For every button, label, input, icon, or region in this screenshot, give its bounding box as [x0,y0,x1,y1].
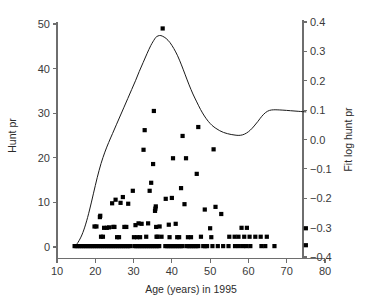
data-point-marker [98,214,102,218]
x-tick-label: 50 [204,265,216,277]
data-point-marker [210,244,214,248]
data-point-marker [233,244,237,248]
chart-figure: 01020304050−0.4−0.3−0.2−0.10.00.10.20.30… [0,0,367,306]
data-point-marker [245,226,249,230]
data-point-marker [203,207,207,211]
x-tick-label: 20 [89,265,101,277]
data-point-marker [161,26,165,30]
y2-tick-label: 0.2 [310,75,325,87]
data-point-marker [140,222,144,226]
data-point-marker [248,244,252,248]
data-point-marker [236,235,240,239]
data-point-marker [263,244,267,248]
y-tick-label: 40 [38,63,50,75]
data-point-marker [164,197,168,201]
axis-labels-layer: 01020304050−0.4−0.3−0.2−0.10.00.10.20.30… [6,16,354,295]
data-point-marker [118,201,122,205]
x-tick-label: 40 [166,265,178,277]
data-point-marker [171,156,175,160]
data-point-marker [304,243,308,247]
y2-axis-title: Fit log hunt pr [342,107,354,172]
scatter-plot-with-fit-curve: 01020304050−0.4−0.3−0.2−0.10.00.10.20.30… [0,0,367,306]
data-point-marker [128,244,132,248]
data-point-marker [227,235,231,239]
data-point-marker [259,244,263,248]
data-point-marker [180,134,184,138]
data-point-marker [154,204,158,208]
data-point-marker [237,244,241,248]
data-point-marker [304,226,308,230]
data-point-marker [94,224,98,228]
data-point-marker [177,235,181,239]
data-point-marker [189,235,193,239]
y-tick-label: 20 [38,152,50,164]
data-point-marker [195,172,199,176]
data-point-marker [221,244,225,248]
data-point-marker [216,244,220,248]
data-point-marker [242,235,246,239]
data-point-marker [146,221,150,225]
y-axis-title: Hunt pr [6,118,18,153]
data-point-marker [148,189,152,193]
data-points-layer [73,26,308,248]
x-tick-label: 70 [281,265,293,277]
data-point-marker [151,162,155,166]
data-point-marker [265,235,269,239]
data-point-marker [196,125,200,129]
data-point-marker [226,244,230,248]
data-point-marker [149,181,153,185]
data-point-marker [167,223,171,227]
data-point-marker [259,235,263,239]
data-point-marker [126,202,130,206]
data-point-marker [196,244,200,248]
data-point-marker [208,226,212,230]
data-point-marker [159,235,163,239]
data-point-marker [199,235,203,239]
y-tick-label: 0 [44,241,50,253]
x-tick-label: 10 [51,265,63,277]
data-point-marker [213,205,217,209]
data-point-marker [107,225,111,229]
data-point-marker [101,235,105,239]
y2-tick-label: −0.3 [310,222,332,234]
data-point-marker [117,235,121,239]
data-point-marker [113,198,117,202]
fit-log-hunt-pr-curve [75,35,306,246]
data-point-marker [170,196,174,200]
data-point-marker [143,128,147,132]
data-point-marker [152,109,156,113]
x-tick-label: 80 [319,265,331,277]
data-point-marker [253,235,257,239]
y2-tick-label: 0.4 [310,16,325,28]
data-point-marker [272,244,276,248]
x-tick-label: 60 [242,265,254,277]
data-point-marker [211,147,215,151]
y-tick-label: 30 [38,107,50,119]
y2-tick-label: −0.1 [310,163,332,175]
data-point-marker [244,244,248,248]
y2-tick-label: −0.2 [310,192,332,204]
data-point-marker [233,235,237,239]
data-point-marker [110,201,114,205]
data-point-marker [124,225,128,229]
data-point-marker [158,224,162,228]
data-point-marker [144,235,148,239]
x-axis-title: Age (years) in 1995 [145,283,237,295]
data-point-marker [138,235,142,239]
data-point-marker [167,235,171,239]
y2-tick-label: 0.3 [310,45,325,57]
data-point-marker [182,202,186,206]
x-tick-label: 30 [127,265,139,277]
data-point-marker [219,212,223,216]
data-point-marker [205,244,209,248]
data-point-marker [157,244,161,248]
y2-tick-label: 0.1 [310,104,325,116]
y2-tick-label: 0.0 [310,134,325,146]
y-tick-label: 10 [38,196,50,208]
y-tick-label: 50 [38,18,50,30]
data-point-marker [141,148,145,152]
data-point-marker [239,226,243,230]
data-point-marker [156,235,160,239]
data-point-marker [112,225,116,229]
fit-curve-layer [75,35,306,246]
